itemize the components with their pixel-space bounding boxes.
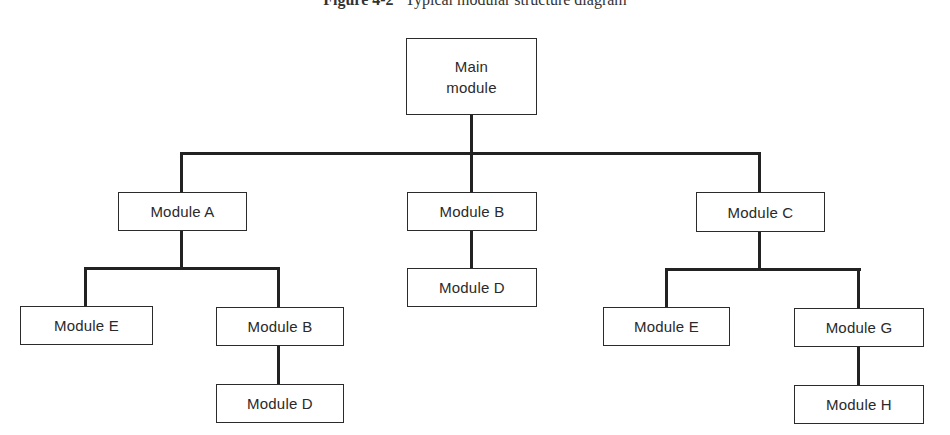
connector-module-b-to-module-d — [470, 230, 473, 269]
connector-to-module-e-right — [665, 268, 668, 308]
node-module-b-lower-label: Module B — [248, 316, 313, 337]
connector-to-module-e-left — [84, 267, 87, 307]
node-main-module-line1: Main — [446, 56, 496, 77]
node-module-e-right-label: Module E — [634, 316, 699, 337]
node-module-e-left-label: Module E — [54, 315, 119, 336]
node-module-g: Module G — [794, 308, 924, 347]
node-module-h: Module H — [794, 385, 924, 424]
connector-module-c-down — [758, 230, 761, 271]
connector-module-a-down — [180, 229, 183, 270]
node-module-d-center: Module D — [407, 268, 537, 307]
node-module-b-lower: Module B — [216, 307, 344, 346]
figure-caption: Figure 4-2 Typical modular structure dia… — [0, 0, 950, 9]
connector-main-down — [470, 114, 473, 155]
node-module-c: Module C — [696, 192, 825, 232]
node-module-h-label: Module H — [826, 394, 892, 415]
connector-to-module-g — [857, 268, 860, 309]
node-module-e-right: Module E — [603, 307, 730, 346]
connector-left-sub-bus — [84, 267, 280, 270]
figure-title: Typical modular structure diagram — [405, 0, 626, 8]
node-module-d-center-label: Module D — [439, 277, 505, 298]
node-module-b-center-label: Module B — [440, 201, 505, 222]
node-module-a: Module A — [118, 192, 247, 231]
node-module-c-label: Module C — [728, 202, 794, 223]
node-main-module-line2: module — [446, 77, 496, 98]
node-module-d-lower-label: Module D — [247, 393, 313, 414]
connector-module-b-lower-to-module-d-lower — [277, 344, 280, 385]
node-module-a-label: Module A — [150, 201, 214, 222]
connector-to-module-b-lower — [277, 267, 280, 308]
node-main-module: Main module — [406, 38, 537, 115]
connector-bus-to-module-c — [758, 152, 761, 193]
connector-module-g-to-module-h — [857, 346, 860, 386]
connector-right-sub-bus — [665, 268, 861, 271]
node-module-e-left: Module E — [20, 306, 153, 345]
node-module-b-center: Module B — [407, 192, 537, 231]
figure-label: Figure 4-2 — [323, 0, 393, 8]
connector-bus-to-module-a — [180, 152, 183, 193]
node-module-d-lower: Module D — [216, 384, 344, 423]
connector-bus-to-module-b — [470, 152, 473, 193]
node-module-g-label: Module G — [826, 317, 893, 338]
